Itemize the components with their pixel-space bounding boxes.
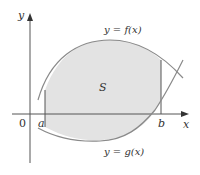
origin-label: 0 xyxy=(19,117,26,130)
area-between-curves-diagram: y x 0 a b y = f(x) y = g(x) S xyxy=(0,0,200,175)
x-axis-arrow-icon xyxy=(181,111,189,117)
y-axis-label: y xyxy=(17,9,25,22)
region-s-label: S xyxy=(99,81,107,94)
curve-g-label: y = g(x) xyxy=(103,146,144,157)
bound-a-label: a xyxy=(38,117,45,130)
curve-f-label: y = f(x) xyxy=(103,24,142,35)
x-axis-label: x xyxy=(183,118,190,131)
y-axis-arrow-icon xyxy=(27,13,33,21)
bound-b-label: b xyxy=(158,117,165,130)
